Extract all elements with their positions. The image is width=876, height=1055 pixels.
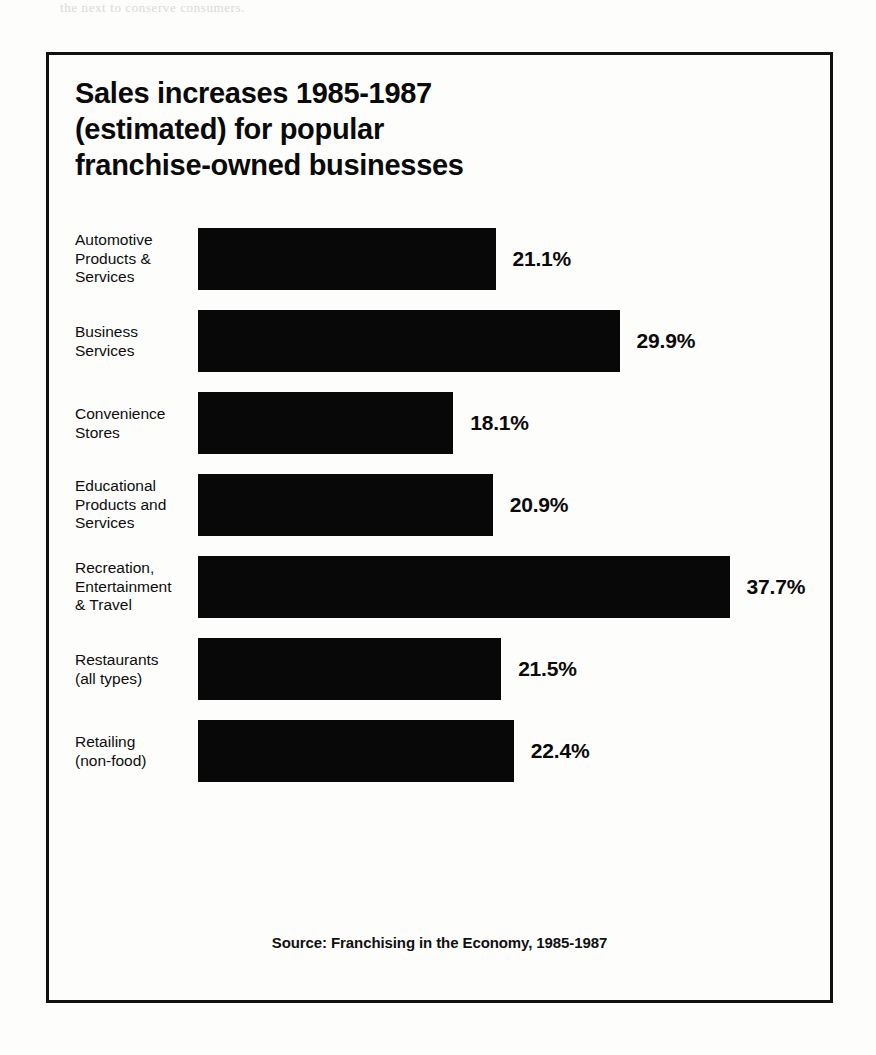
bar (198, 474, 493, 536)
scanned-page: the next to conserve consumers. Sales in… (0, 0, 876, 1055)
bar-value-label: 29.9% (637, 329, 696, 353)
chart-title-line-2: (estimated) for popular (75, 111, 505, 147)
bar-value-label: 22.4% (531, 739, 590, 763)
chart-title-line-3: franchise-owned businesses (75, 147, 505, 183)
bar (198, 720, 514, 782)
chart-frame: Sales increases 1985-1987 (estimated) fo… (46, 52, 833, 1003)
bar (198, 638, 501, 700)
bar-value-label: 21.1% (513, 247, 572, 271)
bar-chart-plot: Automotive Products & Services21.1%Busin… (49, 228, 830, 868)
bar-row: Automotive Products & Services21.1% (49, 228, 830, 290)
bar-row: Restaurants (all types)21.5% (49, 638, 830, 700)
bar-value-label: 21.5% (518, 657, 577, 681)
bar-row: Recreation, Entertainment & Travel37.7% (49, 556, 830, 618)
bar-value-label: 20.9% (510, 493, 569, 517)
bar-row: Business Services29.9% (49, 310, 830, 372)
bar (198, 228, 496, 290)
scan-ghost-text-top: the next to conserve consumers. (60, 0, 245, 16)
bar-value-label: 37.7% (747, 575, 806, 599)
bar (198, 392, 453, 454)
bar (198, 310, 620, 372)
chart-title-line-1: Sales increases 1985-1987 (75, 75, 505, 111)
chart-source-note: Source: Franchising in the Economy, 1985… (49, 934, 830, 951)
bar-row: Retailing (non-food)22.4% (49, 720, 830, 782)
chart-title: Sales increases 1985-1987 (estimated) fo… (75, 75, 505, 183)
bar-row: Educational Products and Services20.9% (49, 474, 830, 536)
bar-row: Convenience Stores18.1% (49, 392, 830, 454)
bar-value-label: 18.1% (470, 411, 529, 435)
bar (198, 556, 730, 618)
